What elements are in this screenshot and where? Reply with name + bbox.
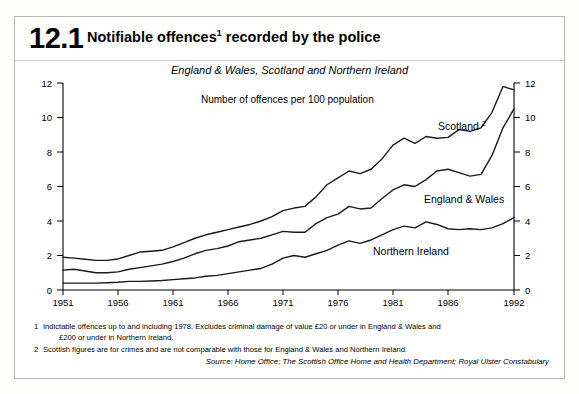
y-axis-ticks-left: 0 2 4 6 8 10 12	[41, 78, 63, 296]
footnotes: 1 Indictable offences up to and includin…	[34, 321, 554, 355]
x-tick-label-1981: 1981	[382, 297, 403, 308]
page-root: 12.1 Notifiable offences1 recorded by th…	[0, 0, 579, 394]
source-note: Source: Home Office; The Scottish Office…	[15, 357, 549, 366]
y-tick-label-right-12: 12	[525, 78, 536, 89]
plot-area: Number of offences per 100 population	[15, 17, 564, 378]
y-tick-label-right-10: 10	[525, 112, 536, 123]
x-tick-label-1961: 1961	[162, 297, 183, 308]
x-tick-label-1986: 1986	[437, 297, 458, 308]
footnote-2: 2 Scottish figures are for crimes and ar…	[34, 344, 554, 355]
series-label-scotland-text: Scotland	[438, 120, 479, 132]
y-tick-label-right-2: 2	[525, 250, 530, 261]
x-tick-label-1951: 1951	[52, 297, 73, 308]
y-tick-label-right-8: 8	[525, 147, 530, 158]
y-tick-label-2: 2	[47, 250, 52, 261]
y-tick-label-right-6: 6	[525, 181, 530, 192]
figure-frame: 12.1 Notifiable offences1 recorded by th…	[14, 16, 565, 379]
y-tick-label-8: 8	[47, 147, 52, 158]
footnote-1: 1 Indictable offences up to and includin…	[34, 321, 554, 344]
footnote-2-number: 2	[34, 344, 38, 355]
x-tick-label-1976: 1976	[327, 297, 348, 308]
series-line-scotland	[63, 86, 514, 260]
footnote-1-line2: £200 or under in Northern Ireland.	[43, 332, 554, 343]
x-tick-label-1956: 1956	[107, 297, 128, 308]
y-tick-label-6: 6	[47, 181, 52, 192]
footnote-1-number: 1	[34, 321, 38, 332]
x-tick-label-1971: 1971	[272, 297, 293, 308]
line-chart-svg: 0 2 4 6 8 10 12 0	[15, 17, 564, 317]
y-tick-label-0: 0	[47, 285, 52, 296]
footnote-1-line1: Indictable offences up to and including …	[43, 322, 441, 331]
y-tick-label-10: 10	[41, 112, 52, 123]
x-tick-label-1966: 1966	[217, 297, 238, 308]
y-tick-label-right-0: 0	[525, 285, 530, 296]
y-tick-label-right-4: 4	[525, 216, 530, 227]
chart-axes	[63, 83, 514, 290]
series-label-scotland: Scotland 2	[438, 120, 486, 132]
series-label-northern-ireland: Northern Ireland	[373, 245, 449, 257]
y-tick-label-12: 12	[41, 78, 52, 89]
series-label-england-wales: England & Wales	[424, 193, 504, 205]
y-axis-ticks-right: 0 2 4 6 8 10 12	[514, 78, 536, 296]
x-axis-ticks: 195119561961196619711976198119861992	[52, 290, 524, 308]
y-tick-label-4: 4	[47, 216, 52, 227]
footnote-2-line1: Scottish figures are for crimes and are …	[43, 345, 407, 354]
x-tick-label-1992: 1992	[503, 297, 524, 308]
series-label-scotland-marker: 2	[482, 119, 486, 128]
